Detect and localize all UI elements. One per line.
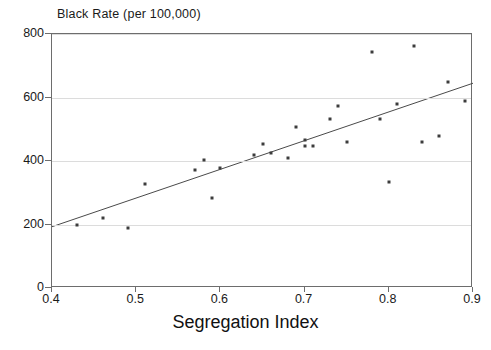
gridline-y-600 <box>52 98 471 99</box>
data-point <box>286 156 289 159</box>
data-point <box>303 139 306 142</box>
data-point <box>370 51 373 54</box>
data-point <box>101 216 104 219</box>
data-point <box>345 140 348 143</box>
y-tick-mark-600 <box>45 97 51 98</box>
chart-title: Black Rate (per 100,000) <box>57 7 201 21</box>
y-tick-label-600: 600 <box>0 90 44 104</box>
data-point <box>438 134 441 137</box>
data-point <box>303 144 306 147</box>
data-point <box>194 169 197 172</box>
data-point <box>379 117 382 120</box>
data-point <box>253 153 256 156</box>
data-point <box>261 143 264 146</box>
y-tick-label-400: 400 <box>0 153 44 167</box>
data-point <box>210 197 213 200</box>
y-tick-mark-200 <box>45 224 51 225</box>
data-point <box>202 159 205 162</box>
x-tick-label-0.6: 0.6 <box>211 292 228 306</box>
data-point <box>143 183 146 186</box>
gridline-y-800 <box>52 34 471 35</box>
y-tick-label-200: 200 <box>0 217 44 231</box>
data-point <box>413 44 416 47</box>
data-point <box>312 145 315 148</box>
data-point <box>126 226 129 229</box>
scatter-chart-figure: Black Rate (per 100,000) Segregation Ind… <box>0 0 491 350</box>
data-point <box>269 151 272 154</box>
y-tick-mark-800 <box>45 33 51 34</box>
data-point <box>328 118 331 121</box>
x-tick-label-0.7: 0.7 <box>295 292 312 306</box>
data-point <box>421 141 424 144</box>
gridline-y-200 <box>52 225 471 226</box>
plot-area <box>51 33 472 287</box>
data-point <box>446 81 449 84</box>
data-point <box>219 167 222 170</box>
x-tick-label-0.5: 0.5 <box>126 292 143 306</box>
y-tick-mark-400 <box>45 160 51 161</box>
data-point <box>76 224 79 227</box>
data-point <box>463 99 466 102</box>
x-tick-label-0.8: 0.8 <box>379 292 396 306</box>
y-tick-label-0: 0 <box>0 280 44 294</box>
data-point <box>387 180 390 183</box>
data-point <box>295 125 298 128</box>
gridline-y-400 <box>52 161 471 162</box>
data-point <box>396 102 399 105</box>
y-tick-label-800: 800 <box>0 26 44 40</box>
x-tick-label-0.4: 0.4 <box>42 292 59 306</box>
data-point <box>337 104 340 107</box>
x-tick-label-0.9: 0.9 <box>463 292 480 306</box>
x-axis-title: Segregation Index <box>0 312 491 333</box>
